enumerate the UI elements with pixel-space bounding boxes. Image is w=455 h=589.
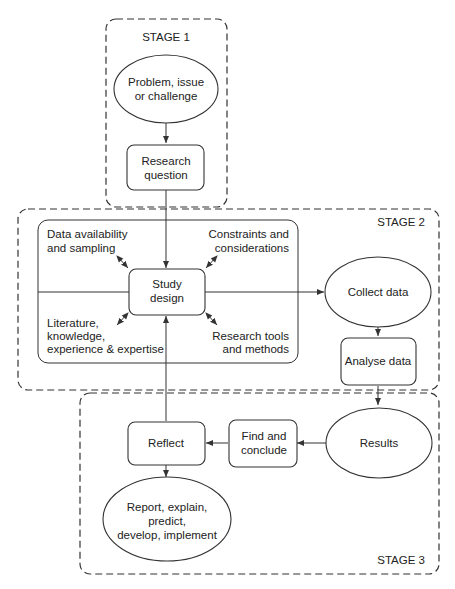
node-analyse-data-label: Analyse data — [345, 355, 412, 367]
node-collect-data-label: Collect data — [348, 286, 409, 298]
double-arrow-literature — [117, 313, 128, 325]
consideration-data-availability-line1: Data availability — [47, 228, 128, 240]
double-arrow-data-availability — [117, 256, 128, 268]
double-arrow-constraints — [206, 256, 217, 268]
node-find-conclude: Find and conclude — [229, 420, 297, 467]
node-report-line1: Report, explain, — [127, 501, 208, 513]
consideration-data-availability: Data availability and sampling — [47, 228, 128, 254]
consideration-literature-line2: knowledge, — [47, 330, 105, 342]
stage-3-label: STAGE 3 — [377, 554, 425, 566]
consideration-research-tools: Research tools and methods — [212, 330, 289, 355]
node-collect-data: Collect data — [325, 257, 431, 327]
node-research-question-line2: question — [144, 169, 187, 181]
node-research-question-line1: Research — [141, 155, 190, 167]
consideration-literature-line1: Literature, — [47, 317, 99, 329]
node-analyse-data: Analyse data — [341, 338, 416, 385]
node-problem-label-line2: or challenge — [135, 90, 198, 102]
consideration-research-tools-line1: Research tools — [212, 330, 289, 342]
node-problem: Problem, issue or challenge — [114, 55, 218, 123]
research-process-diagram: STAGE 1 STAGE 2 STAGE 3 Problem, issue o… — [0, 0, 455, 589]
consideration-data-availability-line2: and sampling — [47, 242, 115, 254]
node-reflect: Reflect — [128, 422, 205, 465]
node-find-conclude-line1: Find and — [242, 430, 287, 442]
consideration-constraints-line1: Constraints and — [208, 228, 289, 240]
node-study-design-line1: Study — [152, 278, 182, 290]
node-problem-label-line1: Problem, issue — [128, 76, 204, 88]
consideration-research-tools-line2: and methods — [223, 343, 290, 355]
node-results-label: Results — [360, 437, 399, 449]
node-report-line2: predict, — [148, 515, 186, 527]
consideration-literature: Literature, knowledge, experience & expe… — [47, 317, 164, 355]
stage-1-label: STAGE 1 — [142, 31, 190, 43]
node-study-design-line2: design — [150, 292, 184, 304]
consideration-constraints: Constraints and considerations — [208, 228, 289, 254]
node-results: Results — [326, 408, 432, 478]
stage-2-label: STAGE 2 — [377, 216, 425, 228]
node-report-line3: develop, implement — [117, 529, 218, 541]
double-arrow-research-tools — [206, 313, 217, 325]
node-study-design: Study design — [129, 269, 205, 315]
node-find-conclude-line2: conclude — [241, 444, 287, 456]
node-research-question: Research question — [127, 145, 204, 190]
node-reflect-label: Reflect — [148, 437, 185, 449]
consideration-literature-line3: experience & expertise — [47, 343, 164, 355]
node-report: Report, explain, predict, develop, imple… — [103, 477, 231, 561]
consideration-constraints-line2: considerations — [215, 242, 289, 254]
